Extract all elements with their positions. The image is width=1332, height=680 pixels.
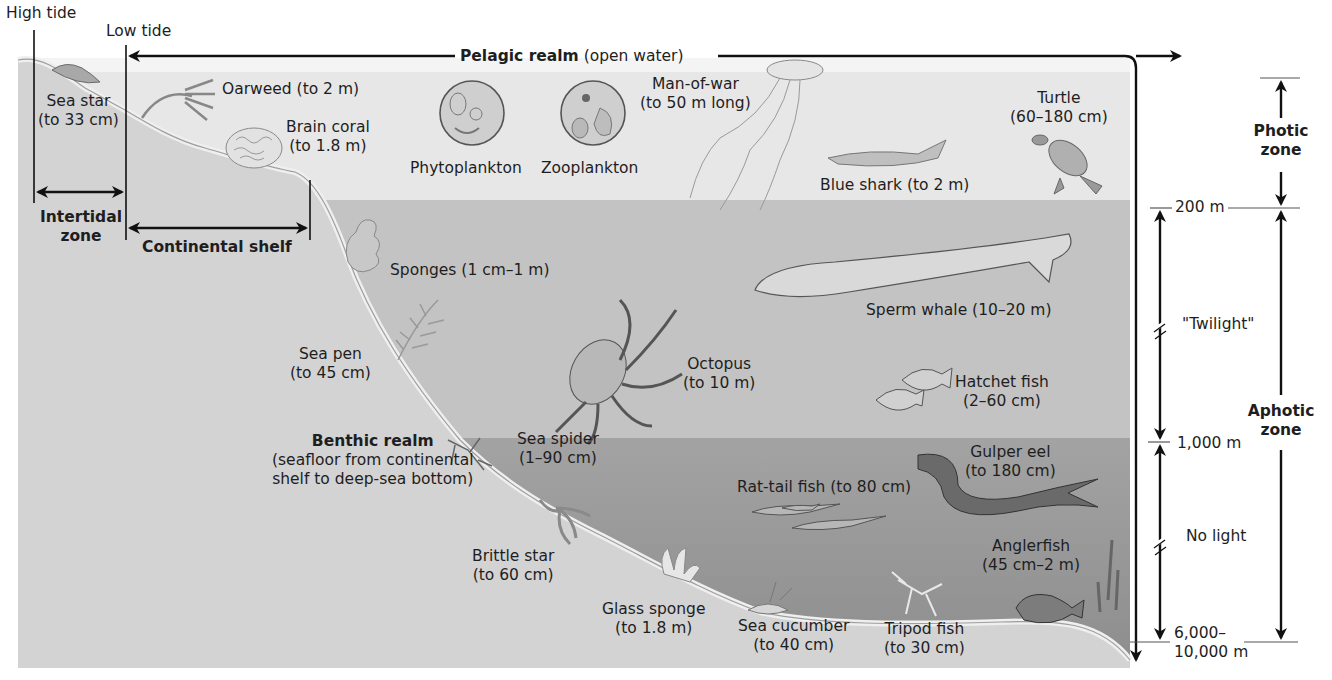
glass-sponge-label: Glass sponge (to 1.8 m) — [602, 600, 706, 638]
depth-scale — [1130, 78, 1300, 642]
zooplankton-art — [561, 81, 625, 145]
twilight-label: "Twilight" — [1182, 315, 1255, 334]
intertidal-zone-label: Intertidal zone — [36, 208, 126, 246]
oarweed-label: Oarweed (to 2 m) — [222, 80, 359, 99]
sponges-label: Sponges (1 cm–1 m) — [390, 261, 550, 280]
continental-shelf-label: Continental shelf — [142, 238, 292, 257]
man-of-war-label: Man-of-war (to 50 m long) — [640, 75, 751, 113]
high-tide-label: High tide — [6, 4, 76, 23]
sea-spider-label: Sea spider (1–90 cm) — [517, 430, 599, 468]
turtle-label: Turtle (60–180 cm) — [1010, 89, 1108, 127]
pelagic-realm-name: Pelagic realm — [460, 47, 579, 65]
pelagic-realm-desc: (open water) — [584, 47, 684, 65]
no-light-label: No light — [1186, 527, 1246, 546]
photic-zone-label: Photic zone — [1251, 122, 1311, 160]
man-of-war-art — [767, 60, 823, 80]
tripod-fish-label: Tripod fish (to 30 cm) — [884, 620, 965, 658]
sperm-whale-label: Sperm whale (10–20 m) — [866, 301, 1051, 320]
pelagic-realm-label: Pelagic realm (open water) — [460, 47, 684, 66]
brittle-star-label: Brittle star (to 60 cm) — [472, 547, 554, 585]
benthic-realm-label: Benthic realm (seafloor from continental… — [272, 432, 473, 489]
blue-shark-label: Blue shark (to 2 m) — [820, 176, 969, 195]
sea-cucumber-label: Sea cucumber (to 40 cm) — [738, 617, 849, 655]
sea-star-label: Sea star (to 33 cm) — [38, 92, 119, 130]
hatchet-fish-label: Hatchet fish (2–60 cm) — [955, 373, 1049, 411]
phytoplankton-art — [440, 81, 504, 145]
sea-pen-label: Sea pen (to 45 cm) — [290, 345, 371, 383]
aphotic-zone-label: Aphotic zone — [1245, 402, 1317, 440]
gulper-eel-label: Gulper eel (to 180 cm) — [965, 443, 1056, 481]
low-tide-label: Low tide — [106, 22, 171, 41]
zooplankton-label: Zooplankton — [541, 159, 638, 178]
octopus-label: Octopus (to 10 m) — [683, 355, 755, 393]
depth-200m-label: 200 m — [1175, 198, 1225, 217]
depth-bottom-label: 6,000– 10,000 m — [1174, 624, 1248, 662]
anglerfish-label: Anglerfish (45 cm–2 m) — [982, 537, 1080, 575]
depth-1000m-label: 1,000 m — [1177, 434, 1241, 453]
brain-coral-art — [226, 128, 282, 168]
phytoplankton-label: Phytoplankton — [410, 159, 522, 178]
rat-tail-fish-label: Rat-tail fish (to 80 cm) — [737, 478, 911, 497]
brain-coral-label: Brain coral (to 1.8 m) — [286, 118, 370, 156]
